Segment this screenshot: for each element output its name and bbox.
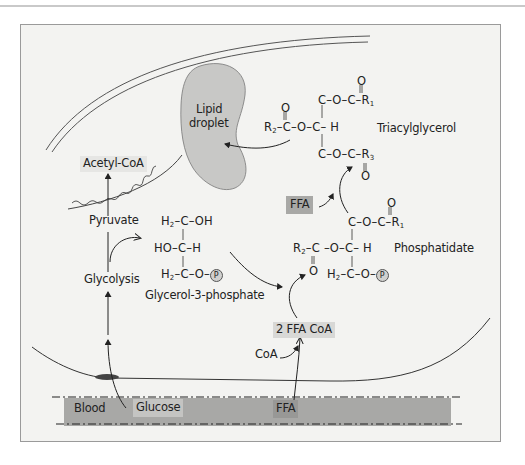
coa-label: CoA <box>255 349 277 361</box>
arrow-phosphatidate-to-tag <box>340 167 352 213</box>
pa-top-row-text: C–O–C–R <box>348 215 400 229</box>
pa-bottom-oxygen: O <box>309 266 318 278</box>
g3p-row1-prefix: H <box>161 214 170 228</box>
g3p-row1-text: –C–OH <box>175 214 213 228</box>
tag-top-row-text: C–O–C–R <box>318 93 370 107</box>
blood-label: Blood <box>74 403 105 415</box>
phosphate-icon: P <box>376 269 389 282</box>
pyruvate-label: Pyruvate <box>89 215 139 227</box>
g3p-row3-prefix: H <box>161 267 170 281</box>
lipid-droplet-label-line1: Lipid <box>196 104 222 116</box>
tag-bottom-oxygen: O <box>361 171 370 183</box>
tag-top-row: C–O–C–R1 <box>318 95 374 108</box>
g3p-row3: H2–C–O–P <box>161 269 223 282</box>
arrow-coa <box>280 346 298 358</box>
pa-bottom-row-text: –C–O– <box>341 267 376 281</box>
arrow-to-glycerol-3-phosphate <box>110 237 140 262</box>
tag-mid-row-text: –C–O–C– H <box>277 120 339 134</box>
tag-top-oxygen: O <box>357 76 366 88</box>
tag-top-sub: 1 <box>370 100 375 108</box>
glucose-uptake-arrow <box>108 340 126 408</box>
tag-bottom-sub: 3 <box>370 154 375 162</box>
glycolysis-label: Glycolysis <box>84 274 139 286</box>
pa-top-row: C–O–C–R1 <box>348 217 404 230</box>
pa-bottom-prefix: H <box>327 267 336 281</box>
tag-mid-prefix: R <box>264 120 272 134</box>
triacylglycerol-label: Triacylglycerol <box>377 123 456 135</box>
g3p-row2: HO–C–H <box>154 243 201 255</box>
arrow-ffacoa-to-phosphatidate <box>289 275 305 318</box>
pa-middle-row: R2–C –O–C– H <box>293 243 372 256</box>
arrow-g3p-to-phosphatidate <box>230 252 282 287</box>
phosphatidate-label: Phosphatidate <box>394 243 474 255</box>
glycerol-3-phosphate-label: Glycerol-3-phosphate <box>145 290 264 302</box>
tag-mid-oxygen: O <box>281 103 290 115</box>
g3p-row3-text: –C–O– <box>175 267 210 281</box>
two-ffa-coa-label: 2 FFA CoA <box>273 322 335 338</box>
acetyl-coa-label: Acetyl-CoA <box>80 156 147 172</box>
glucose-label: Glucose <box>133 399 183 417</box>
pa-bottom-row: H2–C–O–P <box>327 269 389 282</box>
phosphate-icon: P <box>210 269 223 282</box>
tag-middle-row: R2–C–O–C– H <box>264 122 339 135</box>
arrow-ffa-in <box>319 194 333 207</box>
tag-bottom-row-text: C–O–C–R <box>318 147 370 161</box>
ffa-blood-label: FFA <box>273 400 298 418</box>
lipid-droplet-label-line2: droplet <box>189 118 229 130</box>
tag-bottom-row: C–O–C–R3 <box>318 149 374 162</box>
pa-mid-prefix: R <box>293 241 301 255</box>
pa-top-oxygen: O <box>387 198 396 210</box>
ffa-top-label: FFA <box>286 196 313 214</box>
g3p-row1: H2–C–OH <box>161 216 213 229</box>
glucose-transporter <box>95 374 119 380</box>
pa-top-sub: 1 <box>400 222 405 230</box>
pa-mid-row-text: –C –O–C– H <box>306 241 372 255</box>
diagram-canvas <box>0 0 525 465</box>
